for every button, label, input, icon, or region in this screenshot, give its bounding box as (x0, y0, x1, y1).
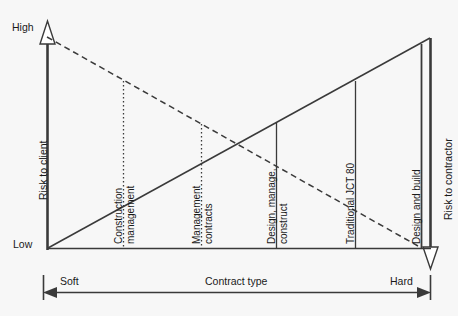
y-axis-low-label: Low (13, 239, 32, 250)
marker-label-design-and-build: Design and build (412, 170, 422, 245)
up-arrow-hollow-icon (40, 21, 55, 44)
down-arrow-hollow-icon (423, 247, 438, 269)
marker-label-traditional-jct80: Traditional JCT 80 (346, 163, 356, 244)
y-axis-high-label: High (12, 22, 34, 33)
right-arrowhead-icon (417, 287, 431, 298)
risk-to-client-line (47, 37, 418, 246)
marker-label-management-contracts-line1: Management (192, 186, 202, 244)
left-axis-group (40, 21, 55, 250)
right-axis-group (423, 38, 438, 269)
left-arrowhead-icon (43, 287, 57, 298)
marker-label-management-contracts-line2: contracts (204, 203, 214, 244)
y-axis-left-title: Risk to client (38, 140, 49, 200)
marker-label-construction-management-line1: Construction (114, 188, 124, 244)
x-axis-left-label: Soft (60, 276, 79, 287)
diagram-canvas (0, 0, 458, 316)
marker-label-construction-management-line2: management (126, 186, 136, 244)
y-axis-right-title: Risk to contractor (443, 138, 454, 220)
x-axis-right-label: Hard (390, 276, 413, 287)
marker-label-design-manage-construct-line1: Design, manage, (267, 168, 277, 244)
risk-contract-type-diagram: High Low Risk to client Risk to contract… (0, 0, 458, 316)
marker-label-design-manage-construct-line2: construct (279, 203, 289, 244)
x-axis-title: Contract type (205, 276, 267, 287)
risk-to-contractor-line (48, 38, 430, 248)
